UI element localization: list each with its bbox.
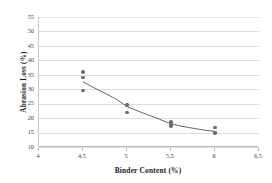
y-axis-label: Abrasion Loss (%) xyxy=(20,22,28,142)
x-tick-label: 4 xyxy=(26,153,50,159)
x-tick-label: 5 xyxy=(114,153,138,159)
data-point xyxy=(81,89,84,92)
data-point xyxy=(213,131,216,134)
data-point xyxy=(169,124,172,127)
data-point xyxy=(125,111,128,114)
y-axis-label-host: Abrasion Loss (%) xyxy=(10,17,24,147)
x-tick-label: 6 xyxy=(202,153,226,159)
abrasion-loss-chart: Abrasion Loss (%) 10152025303540455055 4… xyxy=(0,0,272,183)
data-point xyxy=(81,70,84,73)
x-tick-label: 5,5 xyxy=(158,153,182,159)
x-tick-mark xyxy=(82,148,83,151)
x-tick-mark xyxy=(258,148,259,151)
x-tick-mark xyxy=(170,148,171,151)
x-tick-label: 4,5 xyxy=(70,153,94,159)
plot-area xyxy=(38,17,258,147)
x-tick-label: 6,5 xyxy=(246,153,270,159)
x-tick-mark xyxy=(38,148,39,151)
data-point xyxy=(213,126,216,129)
trend-line xyxy=(39,17,259,147)
gridline xyxy=(39,147,259,148)
x-axis-label: Binder Content (%) xyxy=(38,166,258,175)
x-tick-mark xyxy=(214,148,215,151)
x-tick-mark xyxy=(126,148,127,151)
